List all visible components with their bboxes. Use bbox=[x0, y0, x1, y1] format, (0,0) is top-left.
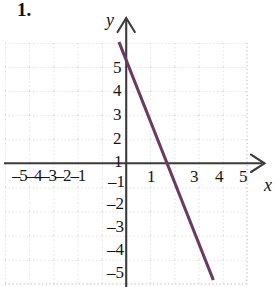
coordinate-plane-figure: –5–4–3–2–1 1 3 4 5 5 4 3 2 1 –1 –2 –3 –4… bbox=[0, 0, 280, 287]
x-tick-label-4: 4 bbox=[215, 168, 224, 185]
y-tick-label-4: 4 bbox=[113, 82, 122, 99]
y-tick-label-1: 1 bbox=[114, 153, 123, 170]
y-tick-label-2: 2 bbox=[113, 130, 122, 147]
x-tick-label-5: 5 bbox=[239, 168, 248, 185]
y-tick-label-neg3: –3 bbox=[107, 218, 124, 235]
x-tick-label-3: 3 bbox=[190, 168, 199, 185]
x-axis-negative-tick-labels: –5–4–3–2–1 bbox=[12, 167, 85, 184]
y-tick-label-neg4: –4 bbox=[107, 241, 124, 258]
y-axis-label: y bbox=[106, 11, 114, 29]
x-axis-label: x bbox=[264, 176, 272, 194]
y-tick-label-neg2: –2 bbox=[107, 195, 124, 212]
x-tick-label-1: 1 bbox=[147, 168, 156, 185]
y-tick-label-neg1: –1 bbox=[108, 173, 125, 190]
y-tick-label-5: 5 bbox=[113, 59, 122, 76]
y-tick-label-neg5: –5 bbox=[107, 264, 124, 281]
graph-canvas bbox=[0, 0, 280, 287]
y-tick-label-3: 3 bbox=[113, 106, 122, 123]
